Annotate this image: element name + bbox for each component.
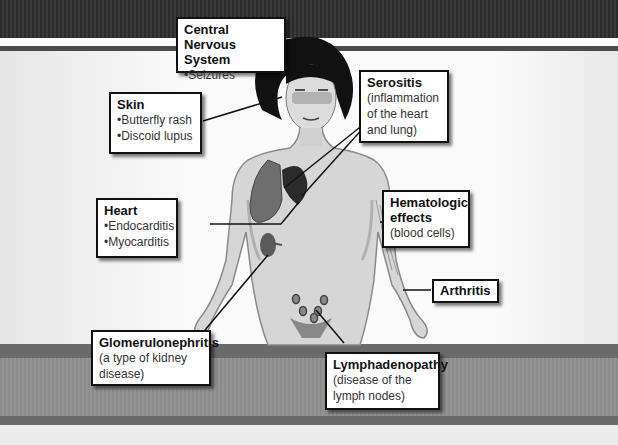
label-title: Arthritis: [440, 283, 491, 298]
label-line: •Endocarditis: [104, 218, 170, 234]
label-line: (inflammation: [367, 90, 441, 106]
label-line: •Butterfly rash: [117, 112, 194, 128]
label-line: (disease of the: [333, 372, 432, 388]
label-line: •Myocarditis: [104, 234, 170, 250]
label-line: •Seizures: [184, 67, 278, 83]
label-title: Hematologic effects: [390, 195, 462, 225]
label-line: •Discoid lupus: [117, 128, 194, 144]
label-title: Serositis: [367, 75, 441, 90]
label-heart: Heart •Endocarditis •Myocarditis: [96, 198, 178, 258]
label-line: (blood cells): [390, 225, 462, 241]
label-central-nervous-system: Central Nervous System •Seizures: [176, 17, 286, 73]
label-title: Lymphadenopathy: [333, 357, 432, 372]
butterfly-rash: [292, 92, 332, 104]
label-title: Central Nervous System: [184, 22, 278, 67]
label-line: disease): [99, 366, 203, 382]
label-arthritis: Arthritis: [432, 279, 499, 303]
kidney: [260, 233, 276, 257]
label-title: Heart: [104, 203, 170, 218]
label-line: of the heart: [367, 106, 441, 122]
label-serositis: Serositis (inflammation of the heart and…: [359, 70, 449, 143]
label-line: and lung): [367, 122, 441, 138]
label-lymphadenopathy: Lymphadenopathy (disease of the lymph no…: [325, 352, 440, 410]
label-line: lymph nodes): [333, 388, 432, 404]
label-title: Glomerulonephritis: [99, 335, 203, 350]
label-hematologic-effects: Hematologic effects (blood cells): [382, 190, 470, 248]
label-title: Skin: [117, 97, 194, 112]
label-skin: Skin •Butterfly rash •Discoid lupus: [109, 92, 202, 154]
label-glomerulonephritis: Glomerulonephritis (a type of kidney dis…: [91, 330, 211, 386]
label-line: (a type of kidney: [99, 350, 203, 366]
